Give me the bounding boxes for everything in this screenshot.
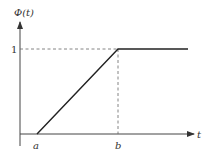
x-axis-label: t (197, 129, 202, 140)
tick-a-label: a (33, 140, 39, 151)
cdf-chart: Φ(t) 1 t a b (0, 0, 205, 153)
cdf-line (37, 49, 188, 134)
tick-one-label: 1 (11, 44, 17, 55)
tick-b-label: b (115, 140, 121, 151)
y-axis-label: Φ(t) (14, 7, 34, 18)
